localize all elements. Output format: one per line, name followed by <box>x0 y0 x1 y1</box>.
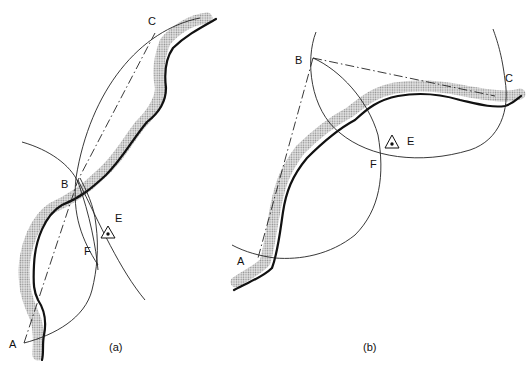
circle-arc-bf-a <box>78 180 145 300</box>
circle-arc-bc-a <box>75 18 200 265</box>
label-e-b: E <box>407 135 414 147</box>
label-c-a: C <box>148 15 156 27</box>
label-b-a: B <box>61 178 68 190</box>
label-f-b: F <box>370 158 377 170</box>
diagram-svg: C B E F A (a) B C E F A (b) <box>0 0 530 372</box>
river-a <box>24 18 207 355</box>
figure-canvas: C B E F A (a) B C E F A (b) <box>0 0 530 372</box>
label-e-a: E <box>115 212 122 224</box>
traverse-line-ba-b <box>258 58 313 258</box>
river-b <box>236 86 520 282</box>
label-a-b: A <box>237 255 245 267</box>
label-f-a: F <box>84 245 91 257</box>
panel-b: B C E F A (b) <box>232 29 521 353</box>
label-c-b: C <box>505 72 513 84</box>
panel-a: C B E F A (a) <box>9 15 216 360</box>
label-a-a: A <box>9 338 17 350</box>
observer-e-b <box>385 135 399 148</box>
caption-a: (a) <box>109 341 122 353</box>
caption-b: (b) <box>363 341 376 353</box>
label-b-b: B <box>295 54 302 66</box>
triangle-marker-icon <box>385 135 399 148</box>
